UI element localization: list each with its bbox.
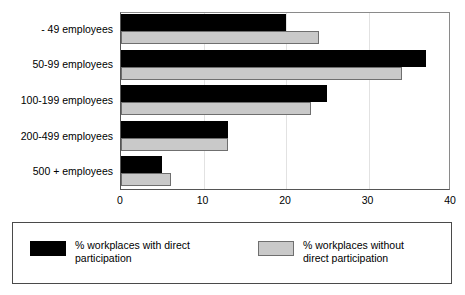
bar xyxy=(121,121,228,138)
black-swatch-icon xyxy=(30,241,66,256)
category-label: 200-499 employees xyxy=(0,130,113,142)
bar xyxy=(121,138,228,151)
category-label: - 49 employees xyxy=(0,23,113,35)
bars-layer xyxy=(121,13,449,189)
bar xyxy=(121,102,311,115)
gray-swatch-icon xyxy=(258,241,294,256)
category-axis-labels: - 49 employees50-99 employees100-199 emp… xyxy=(0,12,113,190)
chart-legend: % workplaces with direct participation %… xyxy=(12,222,452,284)
legend-entry-with-direct-participation: % workplaces with direct participation xyxy=(30,239,190,265)
bar-group xyxy=(121,13,449,49)
bar xyxy=(121,156,162,173)
category-label: 100-199 employees xyxy=(0,94,113,106)
bar-group xyxy=(121,49,449,85)
bar-group xyxy=(121,120,449,156)
bar xyxy=(121,14,286,31)
bar-chart-figure: - 49 employees50-99 employees100-199 emp… xyxy=(0,0,465,295)
bar xyxy=(121,50,426,67)
bar xyxy=(121,31,319,44)
x-tick-label: 20 xyxy=(265,193,305,207)
category-label: 500 + employees xyxy=(0,165,113,177)
x-tick-label: 0 xyxy=(100,193,140,207)
x-axis-tick-labels: 010203040 xyxy=(0,193,465,209)
x-tick-label: 10 xyxy=(183,193,223,207)
category-label: 50-99 employees xyxy=(0,58,113,70)
legend-label: % workplaces without direct participatio… xyxy=(303,239,404,265)
bar-group xyxy=(121,84,449,120)
bar xyxy=(121,173,171,186)
x-tick-label: 40 xyxy=(430,193,465,207)
legend-label: % workplaces with direct participation xyxy=(75,239,190,265)
bar xyxy=(121,67,402,80)
plot-area xyxy=(120,12,450,190)
bar xyxy=(121,85,327,102)
x-tick-label: 30 xyxy=(348,193,388,207)
legend-entry-without-direct-participation: % workplaces without direct participatio… xyxy=(258,239,404,265)
bar-group xyxy=(121,155,449,191)
